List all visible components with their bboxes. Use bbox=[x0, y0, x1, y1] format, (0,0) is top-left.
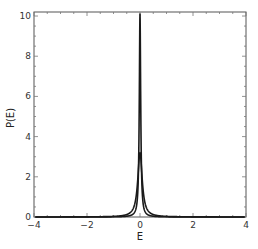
x-axis-label: E bbox=[137, 231, 143, 242]
x-tick-label: −2 bbox=[80, 220, 93, 230]
series-line-0 bbox=[35, 14, 244, 217]
chart: −4−20240246810 E P(E) bbox=[0, 0, 258, 249]
y-axis-label: P(E) bbox=[5, 108, 16, 128]
series-line-1 bbox=[35, 153, 244, 217]
tick-labels: −4−20240246810 bbox=[20, 11, 250, 230]
data-curves bbox=[35, 14, 244, 217]
y-tick-label: 10 bbox=[20, 11, 32, 21]
y-tick-label: 2 bbox=[25, 172, 31, 182]
y-tick-label: 0 bbox=[25, 212, 31, 222]
x-tick-label: 2 bbox=[190, 220, 196, 230]
y-tick-label: 8 bbox=[25, 51, 31, 61]
y-tick-label: 6 bbox=[25, 91, 31, 101]
x-tick-label: 0 bbox=[137, 220, 143, 230]
x-tick-label: 4 bbox=[243, 220, 249, 230]
y-tick-label: 4 bbox=[25, 132, 31, 142]
